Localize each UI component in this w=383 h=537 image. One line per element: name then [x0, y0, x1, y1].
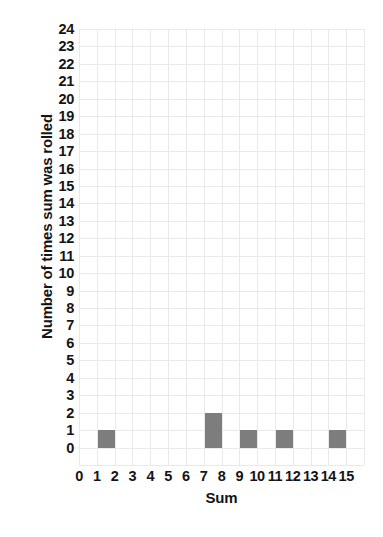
x-tick-label: 1 — [88, 469, 106, 484]
x-tick-label: 8 — [213, 469, 231, 484]
gridline-vertical — [204, 29, 205, 465]
gridline-vertical — [222, 29, 223, 465]
x-tick-label: 2 — [106, 469, 124, 484]
y-tick-label: 14 — [28, 196, 74, 210]
y-tick-label: 1 — [28, 423, 74, 437]
gridline-vertical — [311, 29, 312, 465]
gridline-vertical — [150, 29, 151, 465]
y-tick-label: 17 — [28, 144, 74, 158]
y-tick-label: 23 — [28, 39, 74, 53]
y-tick-label: 16 — [28, 162, 74, 176]
bar — [329, 430, 346, 447]
y-tick-label: 4 — [28, 371, 74, 385]
gridline-vertical — [346, 29, 347, 465]
y-tick-label: 20 — [28, 92, 74, 106]
y-tick-label: 9 — [28, 284, 74, 298]
y-tick-label: 0 — [28, 441, 74, 455]
x-tick-label: 14 — [319, 469, 337, 484]
y-tick-label: 11 — [28, 249, 74, 263]
x-tick-label: 3 — [124, 469, 142, 484]
y-tick-label: 19 — [28, 109, 74, 123]
x-tick-label: 9 — [230, 469, 248, 484]
gridline-vertical — [293, 29, 294, 465]
y-tick-label: 6 — [28, 336, 74, 350]
bar — [98, 430, 115, 447]
plot-area — [79, 29, 364, 465]
gridline-vertical — [97, 29, 98, 465]
x-tick-label: 4 — [141, 469, 159, 484]
y-tick-label: 18 — [28, 127, 74, 141]
gridline-vertical — [115, 29, 116, 465]
bar — [276, 430, 293, 447]
x-tick-label: 11 — [266, 469, 284, 484]
gridline-vertical — [257, 29, 258, 465]
y-axis-tick-labels: 2423222120191817161514131211109876543210 — [26, 0, 74, 537]
y-tick-label: 2 — [28, 406, 74, 420]
x-tick-label: 7 — [195, 469, 213, 484]
x-tick-label: 6 — [177, 469, 195, 484]
gridline-vertical — [186, 29, 187, 465]
y-tick-label: 12 — [28, 231, 74, 245]
y-tick-label: 21 — [28, 74, 74, 88]
y-tick-label: 13 — [28, 214, 74, 228]
y-tick-label: 10 — [28, 266, 74, 280]
y-tick-label: 15 — [28, 179, 74, 193]
y-tick-label: 3 — [28, 388, 74, 402]
gridline-vertical — [328, 29, 329, 465]
x-tick-label: 13 — [302, 469, 320, 484]
y-tick-label: 5 — [28, 353, 74, 367]
gridline-vertical — [364, 29, 365, 465]
gridline-horizontal — [79, 465, 364, 466]
gridline-vertical — [79, 29, 80, 465]
x-tick-label: 5 — [159, 469, 177, 484]
gridline-vertical — [132, 29, 133, 465]
gridline-vertical — [168, 29, 169, 465]
bar — [240, 430, 257, 447]
bar — [205, 413, 222, 448]
y-tick-label: 24 — [28, 22, 74, 36]
x-tick-label: 0 — [70, 469, 88, 484]
x-tick-label: 15 — [337, 469, 355, 484]
y-tick-label: 7 — [28, 318, 74, 332]
x-tick-label: 10 — [248, 469, 266, 484]
gridline-vertical — [239, 29, 240, 465]
y-tick-label: 8 — [28, 301, 74, 315]
gridline-vertical — [275, 29, 276, 465]
x-tick-label: 12 — [284, 469, 302, 484]
chart-figure: Number of times sum was rolled 242322212… — [0, 0, 383, 537]
y-tick-label: 22 — [28, 57, 74, 71]
x-axis-title: Sum — [79, 489, 364, 506]
